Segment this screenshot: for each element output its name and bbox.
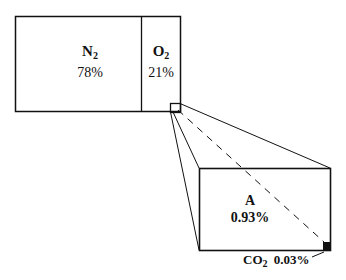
co2-leader-line [312,252,324,257]
o2-percent: 21% [141,66,181,80]
o2-label: O2 21% [141,44,181,80]
argon-label: A 0.93% [228,194,272,225]
co2-callout: CO2 0.03% [243,253,313,266]
diagram-lines [0,0,346,280]
n2-label: N2 78% [40,44,140,80]
co2-square [323,242,331,251]
n2-percent: 78% [40,66,140,80]
argon-percent: 0.93% [228,211,272,225]
